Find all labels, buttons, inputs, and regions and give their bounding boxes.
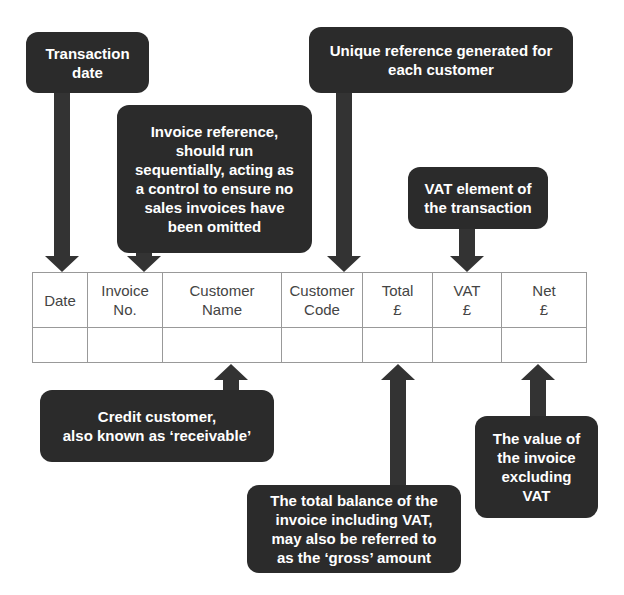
header-date: Date	[33, 273, 88, 328]
callout-customer-code: Unique reference generated for each cust…	[309, 27, 573, 93]
cell-date	[33, 328, 88, 363]
arrow-down-icon	[450, 256, 484, 272]
cell-customer-code	[282, 328, 363, 363]
arrow-down-icon	[45, 256, 79, 272]
callout-invoice-reference: Invoice reference, should run sequential…	[117, 105, 312, 253]
callout-customer-name: Credit customer, also known as ‘receivab…	[40, 390, 274, 462]
arrow-down-icon	[127, 256, 161, 272]
table-row	[33, 328, 587, 363]
callout-net: The value of the invoice excluding VAT	[475, 416, 598, 518]
arrow-total-stem	[390, 379, 406, 486]
arrow-up-icon	[381, 364, 415, 380]
sales-day-book-table: Date Invoice No. Customer Name Customer …	[32, 272, 587, 363]
callout-transaction-date: Transaction date	[26, 32, 149, 93]
table-header-row: Date Invoice No. Customer Name Customer …	[33, 273, 587, 328]
arrow-net-stem	[530, 379, 546, 417]
header-customer-code: Customer Code	[282, 273, 363, 328]
arrow-down-icon	[327, 256, 361, 272]
arrow-vat-stem	[459, 229, 475, 257]
cell-total	[363, 328, 433, 363]
header-net: Net £	[502, 273, 587, 328]
cell-invoice-no	[88, 328, 163, 363]
cell-vat	[433, 328, 502, 363]
arrow-up-icon	[214, 364, 248, 380]
arrow-customer-code-stem	[336, 93, 352, 257]
arrow-transaction-date-stem	[54, 93, 70, 257]
header-vat: VAT £	[433, 273, 502, 328]
cell-customer-name	[163, 328, 282, 363]
header-invoice-no: Invoice No.	[88, 273, 163, 328]
arrow-up-icon	[521, 364, 555, 380]
header-total: Total £	[363, 273, 433, 328]
header-customer-name: Customer Name	[163, 273, 282, 328]
callout-vat: VAT element of the transaction	[408, 167, 548, 229]
callout-total: The total balance of the invoice includi…	[247, 485, 461, 573]
cell-net	[502, 328, 587, 363]
